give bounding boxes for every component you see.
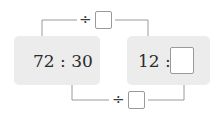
divide-icon-top: ÷	[79, 12, 92, 27]
bottom-divisor-answer-box[interactable]	[128, 91, 145, 109]
top-divisor-answer-box[interactable]	[95, 11, 112, 29]
right-ratio-text: 12 :	[138, 51, 171, 71]
divide-icon-bottom: ÷	[112, 92, 125, 107]
left-ratio-text: 72 : 30	[33, 51, 93, 71]
ratio-answer-box[interactable]	[170, 47, 194, 74]
